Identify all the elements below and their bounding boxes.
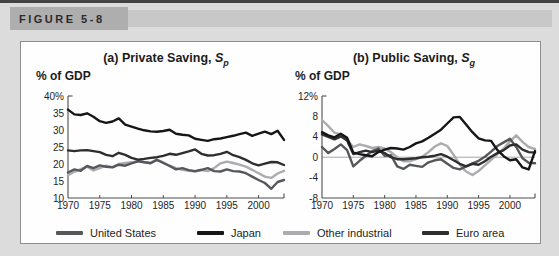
legend-label: Japan (231, 227, 261, 239)
united-states-line-swatch (56, 231, 83, 235)
y-axis-label-private: % of GDP (36, 69, 91, 83)
y-tick-label: -8 (309, 193, 318, 204)
y-tick-label: 40% (44, 91, 64, 102)
legend-label: United States (90, 227, 156, 239)
y-tick-label: 10 (53, 193, 65, 204)
public-saving-plot: 1970197519801985199019952000-8-404812% (285, 86, 541, 212)
chart-title-text: (b) Public Saving, (353, 51, 458, 65)
y-tick-label: 12% (298, 91, 318, 102)
y-tick-label: 4 (312, 131, 318, 142)
figure-page: FIGURE 5-8 (a) Private Saving, Sp (b) Pu… (0, 0, 559, 256)
x-tick-label: 1990 (184, 200, 207, 211)
y-tick-label: 15 (53, 176, 65, 187)
private-saving-plot: 1970197519801985199019952000101520253035… (29, 86, 291, 212)
figure-label: FIGURE 5-8 (19, 13, 105, 25)
x-tick-label: 1985 (152, 200, 175, 211)
x-tick-label: 1985 (405, 200, 428, 211)
x-tick-label: 1975 (342, 200, 365, 211)
y-tick-label: -4 (309, 172, 318, 183)
saving-subscript: g (470, 58, 476, 68)
x-tick-label: 1980 (374, 200, 397, 211)
x-tick-label: 1990 (436, 200, 459, 211)
y-tick-label: 30 (53, 125, 65, 136)
legend: United States Japan Other industrial Eur… (21, 226, 542, 242)
figure-panel: (a) Private Saving, Sp (b) Public Saving… (20, 41, 541, 244)
y-tick-label: 20 (53, 159, 65, 170)
chart-title-public-saving: (b) Public Saving, Sg (309, 51, 519, 68)
saving-subscript: p (223, 58, 229, 68)
chart-title-private-saving: (a) Private Saving, Sp (61, 51, 271, 68)
legend-item-euro-area: Euro area (422, 226, 504, 240)
legend-item-united-states: United States (56, 226, 156, 240)
y-tick-label: 25 (53, 142, 65, 153)
x-tick-label: 1995 (467, 200, 490, 211)
figure-label-box: FIGURE 5-8 (10, 7, 128, 30)
x-tick-label: 2000 (499, 200, 522, 211)
legend-label: Euro area (456, 227, 504, 239)
y-tick-label: 35 (53, 108, 65, 119)
series-euro-area (68, 149, 284, 165)
chart-title-text: (a) Private Saving, (103, 51, 211, 65)
x-tick-label: 1975 (89, 200, 112, 211)
figure-header-strip (128, 10, 552, 27)
euro-area-line-swatch (422, 231, 449, 235)
legend-item-other-industrial: Other industrial (283, 226, 392, 240)
saving-symbol: S (461, 51, 469, 65)
legend-label: Other industrial (317, 227, 392, 239)
x-tick-label: 1980 (120, 200, 143, 211)
japan-line-swatch (197, 231, 224, 235)
y-axis-label-public: % of GDP (295, 69, 350, 83)
x-tick-label: 1995 (216, 200, 239, 211)
y-tick-label: 8 (312, 111, 318, 122)
other-industrial-line-swatch (283, 231, 310, 235)
x-tick-label: 2000 (247, 200, 270, 211)
y-tick-label: 0 (312, 152, 318, 163)
legend-item-japan: Japan (197, 226, 261, 240)
series-japan (68, 110, 284, 141)
top-rule (0, 0, 559, 3)
